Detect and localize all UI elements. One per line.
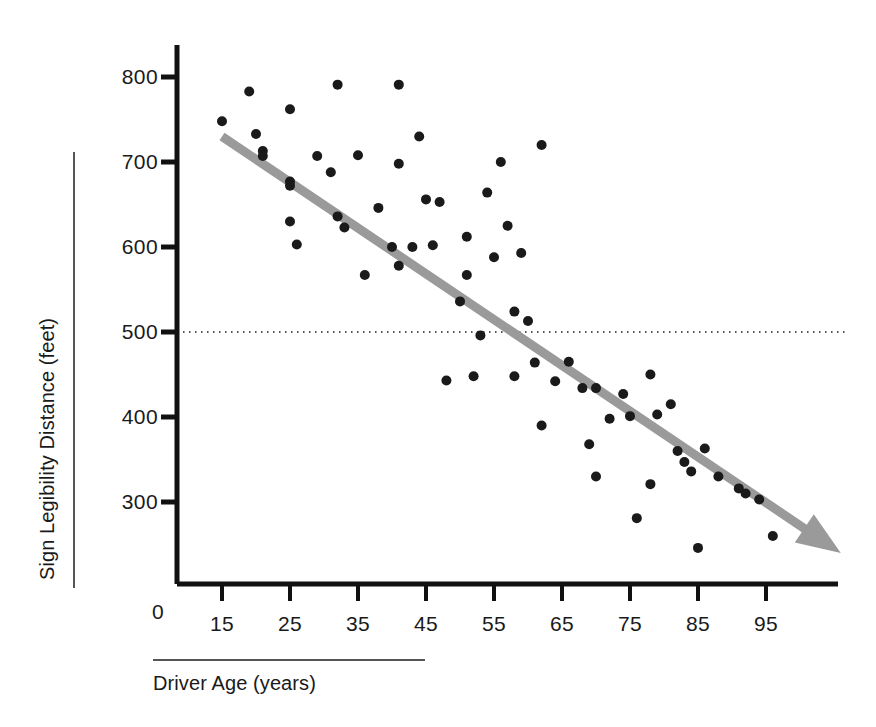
data-point: [523, 316, 533, 326]
data-point: [414, 132, 424, 142]
data-point: [537, 421, 547, 431]
data-point: [645, 370, 655, 380]
chart-figure: 800700600500400300 152535455565758595 0 …: [0, 0, 876, 727]
data-point: [462, 270, 472, 280]
data-point: [754, 494, 764, 504]
y-axis-tick-label: 800: [84, 65, 158, 89]
data-point: [584, 439, 594, 449]
data-point: [394, 261, 404, 271]
data-point: [741, 489, 751, 499]
data-point: [292, 239, 302, 249]
data-point: [673, 446, 683, 456]
data-point: [666, 399, 676, 409]
data-point: [482, 188, 492, 198]
data-point: [516, 248, 526, 258]
data-point: [353, 150, 363, 160]
y-axis-tick-label: 700: [84, 150, 158, 174]
data-point: [312, 151, 322, 161]
data-point: [435, 197, 445, 207]
data-point: [285, 217, 295, 227]
x-axis-tick-label: 15: [210, 612, 234, 636]
x-axis-tick-label: 95: [754, 612, 778, 636]
data-point: [693, 543, 703, 553]
x-axis-tick-label: 65: [550, 612, 574, 636]
y-axis-tick-label: 600: [84, 235, 158, 259]
trend-line: [222, 137, 811, 533]
data-point: [577, 383, 587, 393]
x-axis-title: Driver Age (years): [153, 672, 316, 695]
data-point: [625, 411, 635, 421]
data-point: [360, 270, 370, 280]
data-point: [618, 389, 628, 399]
y-axis-tick-label: 500: [84, 320, 158, 344]
trend-line-arrowhead: [795, 514, 841, 553]
data-point: [455, 296, 465, 306]
data-point: [700, 443, 710, 453]
data-point: [509, 371, 519, 381]
data-point: [475, 330, 485, 340]
data-point: [407, 242, 417, 252]
data-point: [550, 376, 560, 386]
data-point: [326, 167, 336, 177]
x-axis-tick-label: 45: [414, 612, 438, 636]
data-point: [333, 211, 343, 221]
x-axis-tick-label: 35: [346, 612, 370, 636]
data-point: [285, 104, 295, 114]
y-axis-tick-label: 300: [84, 490, 158, 514]
data-point: [632, 513, 642, 523]
data-point: [713, 472, 723, 482]
data-point: [537, 140, 547, 150]
data-point: [509, 307, 519, 317]
data-point: [652, 409, 662, 419]
data-point: [441, 375, 451, 385]
data-point: [469, 371, 479, 381]
x-axis-tick-label: 85: [686, 612, 710, 636]
data-point: [394, 80, 404, 90]
data-points: [217, 80, 778, 553]
data-point: [489, 252, 499, 262]
data-point: [421, 194, 431, 204]
data-point: [605, 414, 615, 424]
data-point: [462, 232, 472, 242]
data-point: [645, 479, 655, 489]
data-point: [530, 358, 540, 368]
data-point: [387, 242, 397, 252]
y-axis-title: Sign Legibility Distance (feet): [36, 318, 59, 580]
x-axis-tick-label: 75: [618, 612, 642, 636]
data-point: [394, 159, 404, 169]
y-axis-tick-label: 400: [84, 405, 158, 429]
data-point: [373, 203, 383, 213]
data-point: [339, 222, 349, 232]
data-point: [285, 181, 295, 191]
data-point: [679, 457, 689, 467]
data-point: [591, 383, 601, 393]
data-point: [686, 466, 696, 476]
data-point: [258, 151, 268, 161]
x-axis-tick-label: 25: [278, 612, 302, 636]
y-axis-origin-label: 0: [152, 600, 164, 624]
data-point: [333, 80, 343, 90]
data-point: [244, 86, 254, 96]
data-point: [564, 357, 574, 367]
data-point: [503, 221, 513, 231]
data-point: [428, 240, 438, 250]
data-point: [591, 472, 601, 482]
data-point: [217, 116, 227, 126]
data-point: [496, 157, 506, 167]
data-point: [251, 129, 261, 139]
x-axis-tick-label: 55: [482, 612, 506, 636]
data-point: [768, 531, 778, 541]
